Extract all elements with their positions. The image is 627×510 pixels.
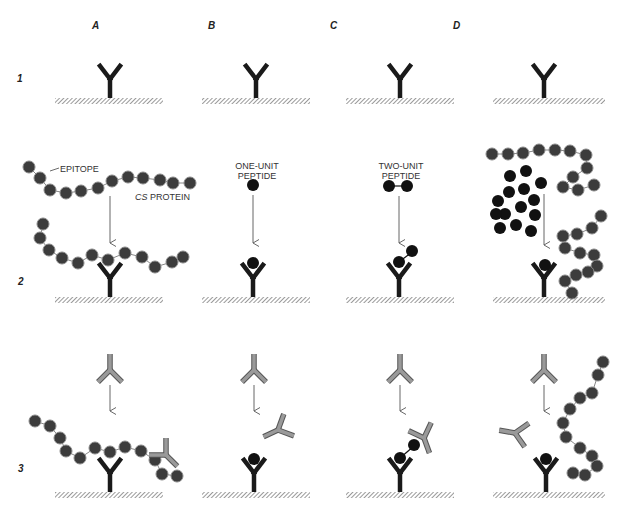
panel-d1: [493, 66, 605, 104]
antibody-bound-icon: [534, 66, 554, 98]
antibody-free-unbound-icon: [497, 418, 529, 446]
panel-a1: [55, 66, 163, 104]
panel-c1: [346, 66, 454, 104]
antibody-bound-icon: [389, 265, 409, 297]
surface: [202, 297, 310, 303]
surface: [346, 492, 454, 498]
antibody-free-icon: [98, 354, 122, 382]
panel-b2: [202, 179, 310, 303]
cs-protein-chain-side: [557, 356, 609, 481]
surface: [493, 492, 605, 498]
surface: [346, 98, 454, 104]
surface: [55, 98, 163, 104]
free-peptide-cluster: [490, 165, 547, 237]
bound-peptide: [540, 453, 552, 465]
antibody-free-icon: [388, 354, 412, 382]
surface: [55, 492, 163, 498]
panel-b1: [202, 66, 310, 104]
antibody-free-bound-to-protein-icon: [149, 438, 186, 475]
antibody-free-icon: [242, 354, 266, 382]
cs-protein-chain-bound: [34, 218, 189, 273]
bound-two-unit-peptide: [393, 245, 418, 268]
cs-protein-chain-top: [23, 161, 196, 199]
cs-protein-chain-side: [557, 210, 607, 299]
bound-peptide: [248, 453, 260, 465]
antibody-bound-icon: [243, 265, 263, 297]
diagram-canvas: [0, 0, 627, 510]
antibody-bound-icon: [390, 66, 410, 98]
antibody-bound-icon: [100, 265, 120, 297]
one-unit-peptide: [247, 179, 259, 191]
panel-c2: [346, 180, 454, 303]
surface: [346, 297, 454, 303]
two-unit-peptide: [383, 180, 413, 192]
surface: [202, 98, 310, 104]
surface: [493, 98, 605, 104]
antibody-bound-icon: [100, 66, 120, 98]
cs-protein-chain-bound: [29, 415, 183, 482]
surface: [55, 297, 163, 303]
panel-a2: [23, 161, 196, 303]
bound-peptide: [247, 257, 259, 269]
panel-b3: [202, 354, 310, 498]
bound-peptide: [539, 259, 551, 271]
antibody-bound-icon: [246, 66, 266, 98]
panel-a3: [29, 354, 186, 498]
panel-d2: [486, 144, 607, 303]
panel-c3: [346, 354, 454, 498]
surface: [493, 297, 605, 303]
antibody-free-unbound-icon: [258, 414, 294, 448]
antibody-free-icon: [532, 354, 556, 382]
panel-d3: [493, 354, 609, 498]
surface: [202, 492, 310, 498]
antibody-bound-icon: [100, 460, 120, 492]
antibody-bound-icon: [390, 460, 410, 492]
